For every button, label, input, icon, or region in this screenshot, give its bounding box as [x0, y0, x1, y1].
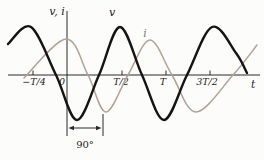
curve-label-v: v	[109, 6, 116, 19]
curve-v	[8, 26, 247, 120]
phase-arrowhead-right	[96, 126, 102, 131]
x-axis-label: t	[251, 78, 256, 90]
waveform-figure: −T/4T/2T3T/20tv, iiv90°	[0, 0, 264, 160]
phase-arrowhead-left	[69, 126, 75, 131]
curve-label-i: i	[143, 27, 147, 40]
tick-label-T: T	[160, 76, 167, 87]
y-axis-label: v, i	[49, 5, 64, 18]
phase-plot-svg: −T/4T/2T3T/20tv, iiv90°	[0, 0, 264, 160]
phase-angle-label: 90°	[76, 139, 94, 150]
tick-label-3T/2: 3T/2	[196, 76, 218, 87]
